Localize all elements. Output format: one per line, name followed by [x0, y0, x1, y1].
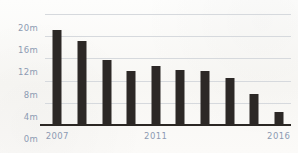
bar	[250, 94, 259, 125]
x-axis-baseline	[40, 124, 291, 126]
gridline	[45, 14, 291, 15]
x-axis-tick-label: 2016	[267, 131, 290, 141]
y-axis-tick-label: 4m	[24, 112, 38, 122]
bar	[77, 41, 86, 125]
bar	[53, 30, 62, 125]
gridline	[45, 36, 291, 37]
bar	[102, 60, 111, 125]
bar	[274, 112, 283, 125]
x-axis-tick-label: 2011	[144, 131, 167, 141]
plot-area	[45, 14, 291, 125]
bar-chart: 0m4m8m12m16m20m 200720112016	[0, 0, 298, 153]
bar	[200, 71, 209, 125]
y-axis-tick-label: 8m	[24, 90, 38, 100]
bar	[151, 66, 160, 125]
x-axis-tick-label: 2007	[46, 131, 69, 141]
y-axis-tick-label: 0m	[24, 134, 38, 144]
bar	[127, 71, 136, 125]
bar	[176, 70, 185, 126]
y-axis-tick-label: 16m	[18, 45, 38, 55]
y-axis: 0m4m8m12m16m20m	[0, 14, 38, 125]
y-axis-tick-label: 12m	[18, 67, 38, 77]
bar	[225, 78, 234, 125]
y-axis-tick-label: 20m	[18, 23, 38, 33]
